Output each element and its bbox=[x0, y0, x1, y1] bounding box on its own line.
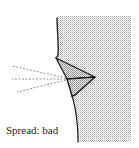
dashed-ray-bottom bbox=[17, 80, 66, 92]
dashed-ray-top bbox=[12, 66, 66, 78]
dashed-rays bbox=[12, 66, 66, 92]
diagram-caption: Spread: bad bbox=[6, 125, 58, 136]
